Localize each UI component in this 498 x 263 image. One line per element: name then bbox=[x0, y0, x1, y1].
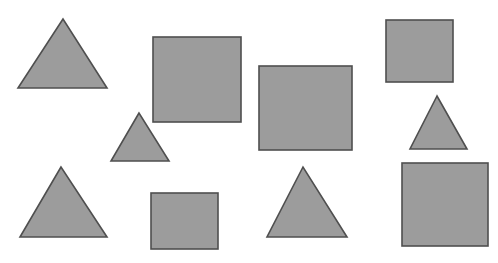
square-shape: Large square, center bbox=[259, 66, 352, 150]
square-shape: Medium square, top right bbox=[386, 20, 453, 82]
square-shape: Small square, bottom center-left bbox=[151, 193, 218, 249]
shape-canvas: Large triangle, top leftLarge square, to… bbox=[0, 0, 498, 263]
shape-scene: Large triangle, top leftLarge square, to… bbox=[0, 0, 498, 263]
square-shape: Large square, bottom right bbox=[402, 163, 488, 246]
square-shape: Large square, top center-left bbox=[153, 37, 241, 122]
